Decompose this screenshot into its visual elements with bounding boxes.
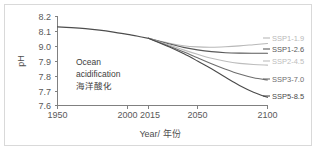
x-tick-label: 2000 <box>117 110 137 120</box>
annotation-line-1: Ocean <box>76 57 101 67</box>
legend-item-ssp3-7.0[interactable]: SSP3-7.0 <box>272 75 304 84</box>
y-tick-label: 7.9 <box>38 57 51 67</box>
x-tick-label: 2100 <box>257 110 277 120</box>
x-tick-labels: 1950 2000 2015 2050 2100 <box>47 110 277 120</box>
y-tick-label: 8.1 <box>38 27 51 37</box>
y-tick-label: 7.6 <box>38 101 51 111</box>
x-tick-label: 2050 <box>187 110 207 120</box>
plot-annotation: Ocean acidification 海洋酸化 <box>76 57 121 91</box>
x-axis-title: Year/ 年份 <box>139 128 180 139</box>
x-tick-label: 2015 <box>140 110 160 120</box>
x-tick-label: 1950 <box>47 110 67 120</box>
annotation-line-2: acidification <box>76 69 121 79</box>
y-tick-label: 8.2 <box>38 12 51 22</box>
figure-container: 8.2 8.1 9.0 7.9 7.8 7.7 7.6 pH 1950 2000… <box>0 0 317 151</box>
series-line-historical <box>58 27 149 38</box>
annotation-line-3: 海洋酸化 <box>76 81 112 91</box>
y-axis-title: pH <box>16 55 26 67</box>
legend-item-ssp2-4.5[interactable]: SSP2-4.5 <box>272 57 304 66</box>
y-tick-label: 9.0 <box>38 42 51 52</box>
y-tick-label: 7.8 <box>38 72 51 82</box>
y-tick-label: 7.7 <box>38 87 51 97</box>
y-tick-labels: 8.2 8.1 9.0 7.9 7.8 7.7 7.6 <box>38 12 51 111</box>
legend-item-ssp1-2.6[interactable]: SSP1-2.6 <box>272 45 304 54</box>
legend-item-ssp1-1.9[interactable]: SSP1-1.9 <box>272 34 304 43</box>
legend: SSP1-1.9 SSP1-2.6 SSP2-4.5 SSP3-7.0 SSP5… <box>263 34 304 101</box>
legend-item-ssp5-8.5[interactable]: SSP5-8.5 <box>272 92 304 101</box>
ocean-acidification-chart: 8.2 8.1 9.0 7.9 7.8 7.7 7.6 pH 1950 2000… <box>0 0 317 151</box>
